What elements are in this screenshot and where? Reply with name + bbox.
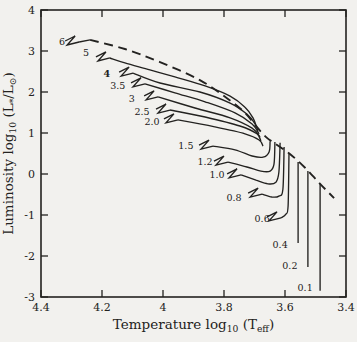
hr-diagram-figure: 4.44.243.83.63.4-3-2-101234Temperature l… — [0, 0, 357, 342]
x-tick-label: 3.6 — [276, 301, 294, 314]
track-hook-2.0 — [164, 114, 178, 123]
track-hook-1.2 — [214, 156, 228, 165]
mass-label-4: 4 — [104, 68, 111, 79]
track-hook-0.8 — [248, 188, 262, 197]
y-tick-label: 3 — [28, 45, 35, 58]
x-tick-label: 3.8 — [215, 301, 233, 314]
y-tick-label: -2 — [24, 250, 35, 263]
y-tick-label: 4 — [28, 4, 35, 17]
y-tick-label: -1 — [24, 209, 35, 222]
mass-label-1.0: 1.0 — [209, 169, 224, 180]
mass-label-0.2: 0.2 — [282, 260, 297, 271]
track-hook-5 — [96, 52, 110, 61]
y-axis-title: Luminosity log10 (L*/L⊙) — [0, 72, 18, 235]
y-tick-label: -3 — [24, 291, 35, 304]
track-hook-6 — [65, 36, 79, 45]
x-tick-label: 4.2 — [93, 301, 111, 314]
mass-label-0.4: 0.4 — [273, 239, 288, 250]
mass-label-2.0: 2.0 — [144, 116, 159, 127]
track-hook-3.5 — [131, 78, 145, 87]
track-hook-1.5 — [199, 140, 213, 149]
track-hook-1.0 — [227, 169, 241, 178]
y-tick-label: 2 — [28, 86, 35, 99]
track-path-6 — [79, 40, 90, 42]
mass-label-5: 5 — [83, 47, 89, 58]
x-tick-label: 3.4 — [337, 301, 355, 314]
track-path-1.2 — [228, 142, 275, 172]
y-tick-label: 1 — [28, 127, 35, 140]
track-path-0.6 — [281, 154, 289, 218]
mass-label-0.1: 0.1 — [298, 282, 313, 293]
mass-label-0.8: 0.8 — [227, 192, 242, 203]
track-hook-2.5 — [156, 104, 170, 113]
mass-label-0.6: 0.6 — [255, 213, 270, 224]
mass-label-3.5: 3.5 — [110, 80, 125, 91]
track-hook-3 — [144, 91, 158, 100]
x-tick-label: 4 — [160, 301, 167, 314]
track-hook-4 — [119, 67, 133, 76]
hr-diagram-svg: 4.44.243.83.63.4-3-2-101234Temperature l… — [0, 0, 357, 342]
y-tick-label: 0 — [28, 168, 35, 181]
mass-label-1.2: 1.2 — [198, 156, 213, 167]
mass-label-6: 6 — [59, 36, 65, 47]
mass-label-3: 3 — [129, 93, 135, 104]
mass-label-1.5: 1.5 — [178, 140, 193, 151]
x-axis-title: Temperature log10 (Teff) — [113, 316, 274, 334]
